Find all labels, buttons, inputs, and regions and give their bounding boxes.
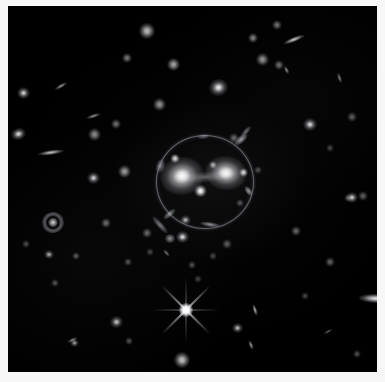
elliptical-galaxy-lower-left (44, 250, 54, 259)
edge-on-galaxy-west (38, 148, 64, 157)
point-source-29 (236, 199, 244, 207)
face-on-ringed-spiral-galaxy (40, 209, 67, 235)
point-source-14 (72, 252, 80, 260)
elliptical-galaxy-upper-right (207, 77, 229, 98)
point-source-3 (153, 98, 166, 111)
point-source-30 (209, 252, 217, 260)
lensed-arc-north (239, 124, 252, 138)
edge-on-galaxy-southeast (251, 304, 259, 317)
point-source-26 (301, 292, 309, 300)
point-source-31 (146, 248, 154, 256)
foreground-star-with-diffraction-spikes (152, 276, 220, 344)
sky-exposure-area (8, 6, 377, 372)
elliptical-galaxy-east (303, 118, 317, 131)
elliptical-galaxy-far-east (346, 192, 358, 203)
elliptical-galaxy-bottom-left (70, 339, 79, 347)
point-source-15 (124, 258, 132, 266)
point-source-4 (122, 53, 132, 63)
lensed-arc-southwest-knot (165, 234, 175, 243)
tidal-bridge (182, 170, 229, 183)
arc-right (242, 185, 253, 197)
point-source-28 (229, 133, 239, 143)
point-source-35 (254, 166, 262, 174)
arc-left (154, 158, 166, 174)
point-source-6 (272, 20, 282, 30)
edge-on-galaxy-mid-east (323, 327, 333, 335)
point-source-9 (111, 119, 121, 129)
point-source-12 (101, 218, 111, 228)
point-source-33 (326, 144, 334, 152)
astronomy-image-canvas: galaxy-cluster-core-with-gravitational-l… (0, 0, 385, 382)
point-source-1 (139, 23, 155, 39)
edge-on-galaxy-lower-left (66, 336, 78, 344)
compact-companion-north (170, 154, 180, 163)
edge-on-galaxy-right-edge (359, 293, 377, 303)
brightest-cluster-galaxy-west (157, 153, 207, 198)
elliptical-galaxy-bottom-center (109, 315, 124, 329)
compact-companion-center (194, 185, 207, 197)
point-source-22 (358, 191, 368, 201)
elliptical-galaxy-south-central (176, 231, 189, 243)
elliptical-galaxy-south-arc (180, 215, 191, 225)
elliptical-galaxy-bottom-east (232, 323, 243, 333)
lensed-arc-southwest-tail (150, 215, 169, 235)
elliptical-galaxy-northwest (17, 87, 30, 99)
point-source-13 (142, 228, 152, 238)
edge-on-galaxy-east (282, 65, 290, 75)
edge-on-galaxy-upper-right (283, 33, 305, 46)
edge-on-galaxy-south (247, 340, 254, 351)
elliptical-galaxy-southwest (87, 172, 100, 184)
edge-on-galaxy-northwest (54, 81, 68, 91)
brightest-cluster-galaxy-east (203, 154, 248, 192)
point-source-17 (51, 279, 59, 287)
point-source-10 (88, 128, 101, 141)
point-source-24 (125, 337, 133, 345)
point-source-11 (118, 165, 131, 178)
elliptical-galaxy-west (9, 126, 27, 141)
point-source-20 (291, 226, 301, 236)
edge-on-galaxy-north-central (85, 112, 101, 120)
arc-top (196, 133, 209, 139)
edge-on-galaxy-far-east (335, 72, 343, 84)
arc-lower-left (161, 207, 176, 221)
point-source-8 (274, 60, 284, 70)
point-source-16 (22, 240, 30, 248)
point-source-5 (248, 33, 258, 43)
edge-on-galaxy-southwest (162, 248, 171, 257)
point-source-25 (174, 352, 190, 368)
einstein-ring (156, 135, 254, 229)
point-source-18 (188, 261, 196, 269)
arc-lower (200, 220, 221, 228)
point-source-27 (353, 350, 361, 358)
arc-upper-right (233, 131, 250, 147)
point-source-32 (347, 112, 357, 122)
compact-companion-northeast (209, 161, 217, 169)
point-source-19 (222, 239, 232, 249)
point-source-7 (256, 53, 269, 66)
point-source-23 (344, 194, 352, 202)
compact-companion-east (239, 168, 248, 177)
point-source-2 (167, 58, 180, 71)
point-source-21 (325, 257, 335, 267)
